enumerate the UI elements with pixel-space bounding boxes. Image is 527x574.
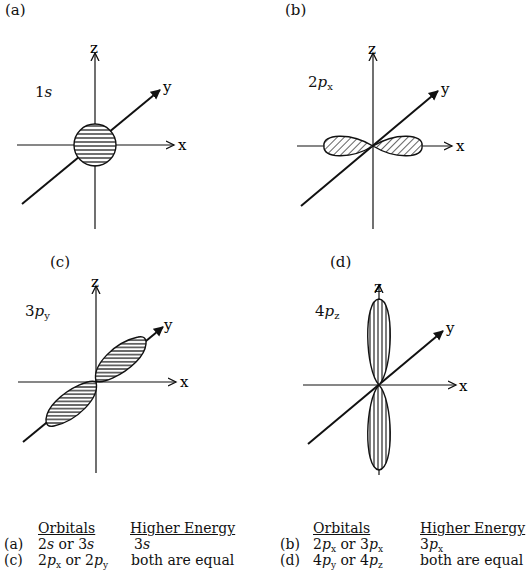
row-higher-a: 3s [134,536,150,553]
header-orbitals-right: Orbitals [313,520,370,537]
row-higher-c: both are equal [131,552,234,569]
row-label-a: (a) [4,536,23,553]
row-label-b: (b) [280,536,300,553]
header-orbitals-left: Orbitals [38,520,95,537]
row-label-d: (d) [280,552,300,569]
header-higher-energy-right: Higher Energy [420,520,525,537]
row-orbitals-c: 2px or 2py [38,552,108,574]
header-higher-energy-left: Higher Energy [130,520,235,537]
row-higher-d: both are equal [420,552,523,569]
row-orbitals-a: 2s or 3s [38,536,94,553]
row-orbitals-d: 4py or 4pz [313,552,383,574]
row-label-c: (c) [4,552,23,569]
